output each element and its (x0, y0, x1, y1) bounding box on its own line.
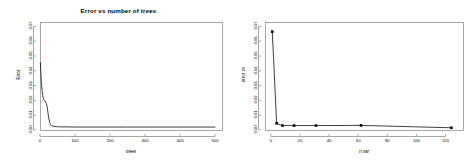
data-point-marker (271, 30, 274, 33)
data-series-line (272, 32, 451, 128)
plot-panel-error-vs-nvar: error cv n var 0.000.010.020.030.040.050… (237, 0, 473, 166)
x-axis-tick-label: 200 (102, 138, 118, 143)
x-axis-tick-label: 400 (172, 138, 188, 143)
y-axis-label-right: error cv (241, 58, 246, 92)
y-axis-tick-label: 0.05 (252, 49, 257, 63)
data-point-marker (450, 126, 453, 129)
y-axis-tick-label: 0.00 (27, 123, 32, 137)
y-axis-tick-label: 0.07 (27, 19, 32, 33)
y-axis-tick-label: 0.01 (27, 108, 32, 122)
y-axis-tick-label: 0.02 (252, 93, 257, 107)
y-axis-tick-label: 0.02 (27, 93, 32, 107)
y-axis-tick-label: 0.06 (27, 34, 32, 48)
y-axis-tick-label: 0.00 (252, 123, 257, 137)
data-point-marker (275, 122, 278, 125)
x-axis-tick-label: 0 (263, 138, 279, 143)
data-series-line (40, 63, 215, 127)
data-point-marker (315, 124, 318, 127)
y-axis-tick-label: 0.03 (27, 78, 32, 92)
y-axis-tick-label: 0.04 (27, 63, 32, 77)
y-axis-tick-label: 0.07 (252, 19, 257, 33)
y-axis-tick-label: 0.04 (252, 63, 257, 77)
y-axis-tick-label: 0.05 (27, 49, 32, 63)
y-axis-label-left: Error (16, 58, 21, 92)
figure-canvas: Error vs number of trees Error trees 0.0… (0, 0, 473, 166)
data-point-marker (360, 124, 363, 127)
x-axis-label-right: n var (265, 149, 463, 154)
data-point-marker (281, 124, 284, 127)
x-axis-tick-label: 100 (408, 138, 424, 143)
y-axis-tick-label: 0.01 (252, 108, 257, 122)
plot-box (41, 23, 223, 131)
x-axis-tick-label: 20 (292, 138, 308, 143)
x-axis-tick-label: 40 (321, 138, 337, 143)
x-axis-tick-label: 100 (67, 138, 83, 143)
data-point-marker (293, 124, 296, 127)
x-axis-label-left: trees (40, 149, 222, 154)
plot-panel-error-vs-trees: Error vs number of trees Error trees 0.0… (0, 0, 237, 166)
x-axis-tick-label: 300 (137, 138, 153, 143)
y-axis-tick-label: 0.06 (252, 34, 257, 48)
x-axis-tick-label: 80 (379, 138, 395, 143)
x-axis-tick-label: 500 (207, 138, 223, 143)
x-axis-tick-label: 120 (438, 138, 454, 143)
y-axis-tick-label: 0.03 (252, 78, 257, 92)
plot-box (266, 23, 464, 131)
x-axis-tick-label: 60 (350, 138, 366, 143)
x-axis-tick-label: 0 (32, 138, 48, 143)
